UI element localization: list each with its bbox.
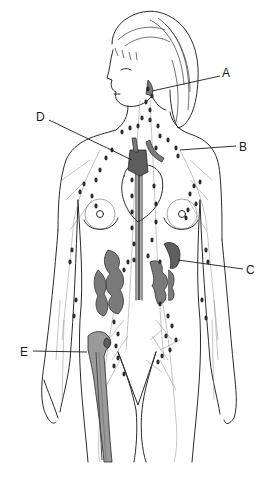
lymph-node <box>90 194 93 199</box>
lymph-node <box>68 260 71 265</box>
lymph-node <box>174 338 177 343</box>
lymph-node <box>130 194 133 199</box>
lymph-node <box>126 260 129 265</box>
lymph-node <box>70 248 73 253</box>
lymph-node <box>116 332 119 337</box>
lymph-node <box>150 238 153 243</box>
lymph-node <box>158 260 161 265</box>
lymph-node <box>204 316 207 321</box>
lymph-node <box>148 118 151 123</box>
breasts <box>84 199 198 230</box>
lymph-node <box>112 364 115 369</box>
lymph-node <box>78 190 81 195</box>
lymph-node <box>130 210 133 215</box>
lymph-node <box>204 248 207 253</box>
lymph-node <box>154 220 157 225</box>
lymph-node <box>114 344 117 349</box>
lymph-node <box>198 180 201 185</box>
lymph-node <box>122 372 125 377</box>
lymph-node <box>158 134 161 139</box>
spleen <box>164 242 180 268</box>
label-e: E <box>20 345 28 359</box>
lymph-node <box>174 146 177 151</box>
lymph-node <box>94 178 97 183</box>
lymph-node <box>186 208 189 213</box>
lymph-node <box>94 204 97 209</box>
lymph-node <box>192 184 195 189</box>
lymph-node <box>152 184 155 189</box>
leader-line-e <box>33 351 87 352</box>
lymph-node <box>156 124 159 129</box>
lymph-node <box>122 268 125 273</box>
lymph-node <box>184 216 187 221</box>
label-d: D <box>36 110 45 124</box>
lymph-node <box>154 146 157 151</box>
lymph-node <box>166 314 169 319</box>
leader-line-a <box>152 76 220 91</box>
lymph-node <box>170 324 173 329</box>
lymph-node <box>146 87 149 92</box>
lymph-node <box>130 226 133 231</box>
label-a: A <box>222 66 230 80</box>
lymph-node <box>136 124 139 129</box>
femur-bone-marrow <box>88 332 112 463</box>
lymph-node <box>144 100 147 105</box>
lymph-node <box>104 156 107 161</box>
lymph-node <box>188 192 191 197</box>
lymph-node <box>200 298 203 303</box>
leader-line-d <box>49 120 132 160</box>
lymph-node <box>154 202 157 207</box>
lymph-node <box>140 116 143 121</box>
face <box>107 50 166 110</box>
lymph-node <box>194 202 197 207</box>
lymph-node <box>168 348 171 353</box>
hair <box>112 11 198 128</box>
lymph-node <box>132 258 135 263</box>
lymph-node <box>74 298 77 303</box>
lymph-node <box>128 126 131 131</box>
lymph-node <box>130 178 133 183</box>
lymph-node <box>156 360 159 365</box>
lymph-node <box>176 154 179 159</box>
thymus <box>128 138 164 176</box>
lymphatic-system-diagram: A B C D E <box>0 0 274 482</box>
lymph-node <box>82 182 85 187</box>
lymph-node <box>166 138 169 143</box>
lymph-node <box>132 242 135 247</box>
lymph-node <box>150 94 153 99</box>
lymph-node <box>148 108 151 113</box>
leader-line-c <box>178 260 243 269</box>
lymph-node <box>158 302 161 307</box>
lymph-node <box>164 334 167 339</box>
lymph-node <box>98 168 101 173</box>
label-c: C <box>246 263 255 277</box>
lymph-node <box>146 254 149 259</box>
label-b: B <box>239 140 247 154</box>
lymph-node <box>116 356 119 361</box>
lymph-node <box>112 320 115 325</box>
leader-line-b <box>180 146 236 150</box>
lymph-node <box>120 130 123 135</box>
lymph-node <box>72 314 75 319</box>
lymph-node <box>160 354 163 359</box>
